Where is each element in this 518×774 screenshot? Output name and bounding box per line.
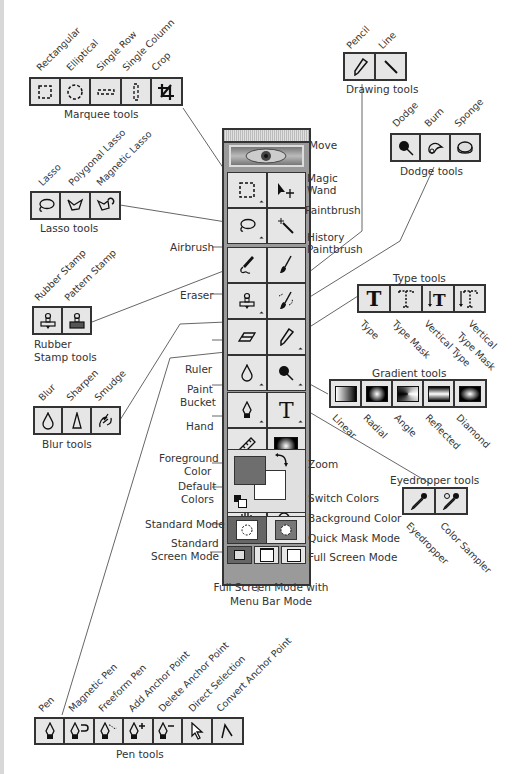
line-button[interactable] <box>376 54 405 79</box>
full-screen-mode-button[interactable] <box>281 546 306 564</box>
full-screen-menu-bar-mode-button[interactable] <box>254 546 279 564</box>
crop-button[interactable] <box>152 79 181 104</box>
pencil-tool-button[interactable] <box>268 320 306 354</box>
label-crop: Crop <box>149 50 172 73</box>
pattern-stamp-button[interactable] <box>63 308 90 333</box>
smudge-button[interactable] <box>92 408 119 433</box>
pencil-icon <box>352 58 368 76</box>
label-pen: Pen <box>36 694 56 714</box>
blur-tools-label: Blur tools <box>42 438 92 450</box>
sponge-button[interactable] <box>451 135 479 160</box>
callout-magic-wand-2: Wand <box>307 184 336 196</box>
standard-mode-button[interactable] <box>228 517 266 543</box>
dodge-button[interactable] <box>392 135 419 160</box>
label-angle: Angle <box>392 412 419 439</box>
toolbox-title-bar[interactable] <box>224 130 309 143</box>
marquee-tools-group <box>29 77 183 106</box>
label-line: Line <box>376 29 398 51</box>
rectangular-marquee-button[interactable] <box>31 79 59 104</box>
toolbox-selection-section <box>227 172 306 244</box>
quick-mask-mode-button[interactable] <box>266 517 305 543</box>
paintbrush-tool-button[interactable] <box>268 248 306 282</box>
type-mask-icon <box>397 289 415 309</box>
callout-paintbrush: Paintbrush <box>305 204 361 216</box>
callout-paint-bucket-2: Bucket <box>180 396 216 408</box>
elliptical-marquee-button[interactable] <box>61 79 89 104</box>
label-blur: Blur <box>36 382 57 403</box>
polygonal-lasso-button[interactable] <box>61 193 88 218</box>
magnetic-lasso-button[interactable] <box>91 193 119 218</box>
quick-mask-mode-icon <box>279 523 293 537</box>
dodge-icon <box>397 139 415 157</box>
airbrush-tool-button[interactable] <box>228 248 266 282</box>
dodge-icon <box>277 364 295 382</box>
sharpen-icon <box>69 412 85 430</box>
callout-paint-bucket-1: Paint <box>187 383 213 395</box>
rubber-stamp-button[interactable] <box>34 308 61 333</box>
magnetic-pen-button[interactable] <box>65 719 92 743</box>
linear-gradient-button[interactable] <box>331 381 360 406</box>
rubber-stamp-icon <box>238 292 256 310</box>
lasso-tools-group <box>30 191 121 220</box>
history-brush-tool-button[interactable] <box>268 284 306 318</box>
move-tool-button[interactable] <box>268 173 306 207</box>
eraser-tool-button[interactable] <box>228 320 266 354</box>
pencil-icon <box>278 328 294 346</box>
pen-icon <box>240 401 254 419</box>
lasso-button[interactable] <box>32 193 59 218</box>
paintbrush-icon <box>278 255 294 275</box>
callout-standard-screen-2: Screen Mode <box>151 550 219 562</box>
marquee-tool-button[interactable] <box>228 173 266 207</box>
drawing-tools-label: Drawing tools <box>346 83 418 95</box>
default-colors-bg-icon <box>238 499 247 508</box>
magic-wand-tool-button[interactable] <box>268 209 306 243</box>
polygonal-lasso-icon <box>65 197 85 215</box>
add-anchor-point-button[interactable] <box>124 719 151 743</box>
blur-button[interactable] <box>35 408 61 433</box>
type-mask-button[interactable] <box>391 286 421 311</box>
freeform-pen-icon <box>99 722 119 740</box>
freeform-pen-button[interactable] <box>95 719 122 743</box>
type-button[interactable]: T <box>359 286 389 311</box>
eyedropper-button[interactable] <box>404 489 434 513</box>
rubber-stamp-tool-button[interactable] <box>228 284 266 318</box>
convert-anchor-point-button[interactable] <box>213 719 242 743</box>
type-tool-button[interactable]: T <box>268 393 306 427</box>
angle-gradient-button[interactable] <box>393 381 422 406</box>
eyedropper-tools-label: Eyedropper tools <box>390 474 479 486</box>
toolbox-painting-section <box>227 247 306 391</box>
eraser-icon <box>237 329 257 345</box>
vertical-type-mask-button[interactable] <box>455 286 484 311</box>
toolbox-logo-eye[interactable] <box>229 145 304 167</box>
color-sampler-button[interactable] <box>436 489 466 513</box>
burn-icon <box>426 139 444 157</box>
rectangular-marquee-icon <box>238 181 256 199</box>
reflected-gradient-button[interactable] <box>424 381 453 406</box>
dodge-tool-button[interactable] <box>268 356 306 390</box>
callout-switch-colors: Switch Colors <box>308 492 379 504</box>
blur-tool-button[interactable] <box>228 356 266 390</box>
pen-button[interactable] <box>36 719 63 743</box>
vertical-type-button[interactable]: T <box>423 286 453 311</box>
switch-colors-icon[interactable] <box>274 452 290 468</box>
single-column-marquee-button[interactable] <box>122 79 150 104</box>
label-linear: Linear <box>330 412 359 441</box>
burn-button[interactable] <box>421 135 448 160</box>
diamond-gradient-button[interactable] <box>455 381 485 406</box>
direct-selection-button[interactable] <box>183 719 210 743</box>
eyedropper-tools-group <box>402 487 468 515</box>
single-row-marquee-button[interactable] <box>91 79 119 104</box>
foreground-color-swatch[interactable] <box>234 456 266 485</box>
radial-gradient-button[interactable] <box>362 381 391 406</box>
lasso-tool-button[interactable] <box>228 209 266 243</box>
standard-screen-mode-button[interactable] <box>227 546 252 564</box>
sharpen-button[interactable] <box>63 408 89 433</box>
stamp-tools-label: Rubber Stamp tools <box>34 338 97 364</box>
blur-tools-group <box>33 406 121 435</box>
pencil-button[interactable] <box>345 54 374 79</box>
delete-anchor-point-button[interactable] <box>154 719 181 743</box>
screen-mode-area <box>227 546 306 564</box>
pen-tool-button[interactable] <box>228 393 266 427</box>
mask-mode-area <box>227 516 306 544</box>
callout-standard-mode: Standard Mode <box>145 518 225 530</box>
